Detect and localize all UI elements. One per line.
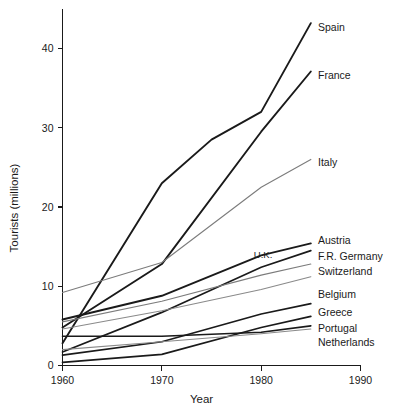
series-line-f-r-germany: [63, 264, 311, 322]
series-line-netherlands: [63, 329, 311, 350]
series-line-portugal: [63, 326, 311, 336]
x-tick-label: 1990: [349, 374, 373, 386]
x-tick-label: 1970: [150, 374, 174, 386]
x-axis: 1960197019801990: [51, 366, 373, 386]
x-axis-title: Year: [190, 393, 213, 405]
y-tick-label: 10: [42, 280, 54, 292]
series-line-france: [63, 71, 311, 327]
y-tick-label: 40: [42, 42, 54, 54]
y-axis-title: Tourists (millions): [8, 163, 20, 252]
series-label-netherlands: Netherlands: [318, 336, 375, 348]
series-lines: [63, 23, 311, 362]
series-label-f-r-germany: F.R. Germany: [318, 250, 384, 262]
series-label-italy: Italy: [318, 156, 338, 168]
series-label-austria: Austria: [318, 234, 351, 246]
series-label-france: France: [318, 69, 351, 81]
series-label-spain: Spain: [318, 21, 345, 33]
series-label-uk: U.K.: [254, 249, 272, 260]
series-label-switzerland: Switzerland: [318, 265, 372, 277]
tourism-line-chart: 010203040 1960197019801990 Tourists (mil…: [0, 0, 400, 413]
x-tick-label: 1960: [51, 374, 75, 386]
y-tick-label: 0: [48, 359, 54, 371]
series-label-belgium: Belgium: [318, 288, 356, 300]
series-label-portugal: Portugal: [318, 322, 357, 334]
series-label-greece: Greece: [318, 306, 353, 318]
x-tick-label: 1980: [249, 374, 273, 386]
y-tick-label: 30: [42, 122, 54, 134]
y-axis: 010203040: [42, 9, 63, 371]
chart-canvas: 010203040 1960197019801990 Tourists (mil…: [0, 0, 400, 413]
y-tick-label: 20: [42, 201, 54, 213]
series-labels: SpainFranceItalyAustriaU.K.F.R. GermanyS…: [254, 21, 384, 348]
